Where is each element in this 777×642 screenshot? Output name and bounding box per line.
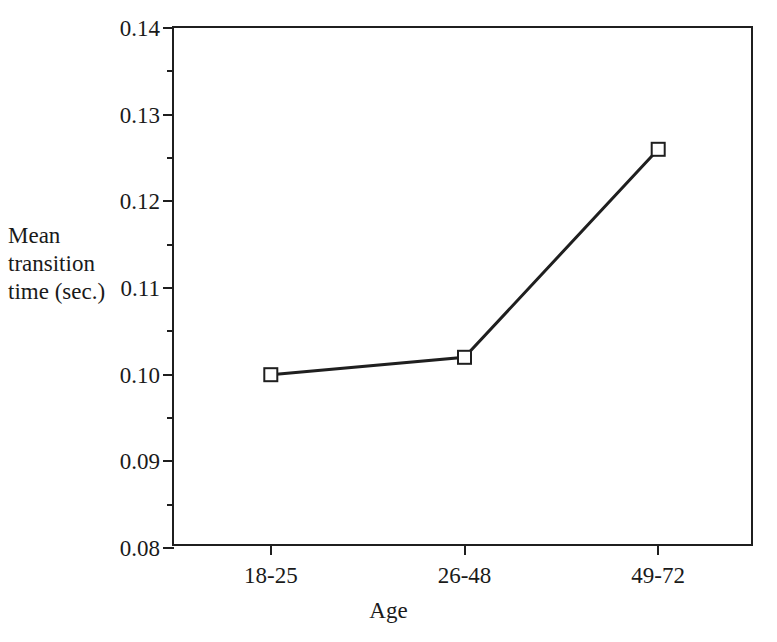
data-series-layer — [174, 28, 755, 548]
x-axis-tick-label: 26-48 — [438, 564, 492, 587]
x-axis-tick-label: 18-25 — [244, 564, 298, 587]
y-axis-tick-major — [163, 200, 174, 202]
y-axis-tick-label: 0.12 — [120, 190, 160, 213]
data-line — [271, 149, 658, 374]
chart-figure: Mean transition time (sec.) 0.080.090.10… — [0, 0, 777, 642]
x-axis-tick — [270, 544, 272, 555]
y-axis-tick-minor — [167, 244, 174, 246]
y-axis-tick-major — [163, 114, 174, 116]
x-axis-label: Age — [0, 598, 777, 624]
x-axis-tick — [464, 544, 466, 555]
y-axis-label-line-3: time (sec.) — [8, 278, 126, 306]
y-axis-tick-major — [163, 27, 174, 29]
data-point-marker — [458, 351, 471, 364]
y-axis-tick-label: 0.14 — [120, 17, 160, 40]
y-axis-tick-minor — [167, 70, 174, 72]
y-axis-tick-minor — [167, 330, 174, 332]
y-axis-tick-minor — [167, 504, 174, 506]
y-axis-tick-label: 0.08 — [120, 537, 160, 560]
plot-area: 0.080.090.100.110.120.130.1418-2526-4849… — [172, 26, 753, 546]
y-axis-tick-major — [163, 374, 174, 376]
x-axis-tick — [657, 544, 659, 555]
y-axis-tick-minor — [167, 157, 174, 159]
y-axis-tick-label: 0.13 — [120, 103, 160, 126]
y-axis-label: Mean transition time (sec.) — [8, 222, 126, 306]
y-axis-tick-major — [163, 547, 174, 549]
y-axis-tick-label: 0.09 — [120, 450, 160, 473]
y-axis-tick-label: 0.10 — [120, 363, 160, 386]
y-axis-tick-label: 0.11 — [121, 277, 160, 300]
data-point-marker — [264, 368, 277, 381]
y-axis-tick-major — [163, 460, 174, 462]
data-point-marker — [652, 143, 665, 156]
y-axis-label-line-2: transition — [8, 250, 126, 278]
y-axis-tick-minor — [167, 417, 174, 419]
y-axis-tick-major — [163, 287, 174, 289]
y-axis-label-line-1: Mean — [8, 222, 126, 250]
x-axis-tick-label: 49-72 — [631, 564, 685, 587]
